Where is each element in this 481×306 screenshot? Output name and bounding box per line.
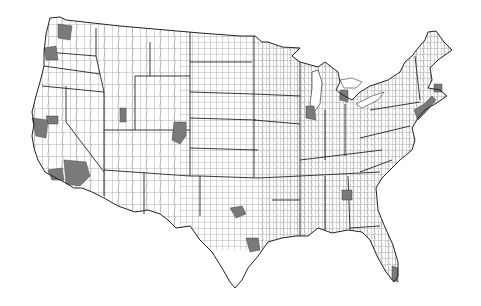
lake-huron-shore — [340, 78, 362, 88]
metro-salt-lake — [120, 108, 126, 122]
metro-sacramento — [46, 116, 58, 124]
map-canvas — [0, 0, 481, 306]
metro-seattle — [58, 24, 72, 40]
metro-chicago — [306, 106, 316, 120]
us-county-map — [0, 0, 481, 306]
metro-portland — [44, 46, 58, 60]
metro-atlanta — [342, 190, 352, 200]
